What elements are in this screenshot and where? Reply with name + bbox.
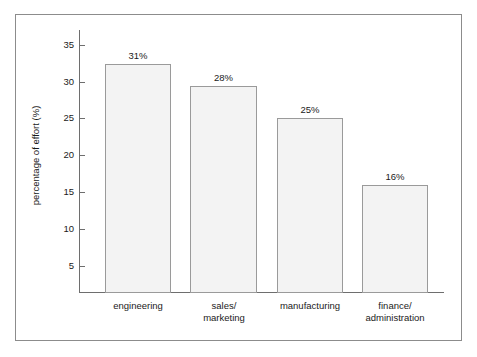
figure: percentage of effort (%) 35 30 25 20 15 … <box>0 0 477 357</box>
y-tick-35 <box>80 45 85 46</box>
y-tick-25 <box>80 118 85 119</box>
bar-finance-administration[interactable] <box>362 185 428 293</box>
y-tick-label-30: 30 <box>52 77 74 87</box>
bar-value-label-finance-administration: 16% <box>362 171 428 182</box>
x-tick-label-engineering: engineering <box>90 300 186 312</box>
x-tick-label-finance-administration: finance/ administration <box>340 300 450 324</box>
x-tick-label-sales-marketing: sales/ marketing <box>176 300 272 324</box>
y-axis-title: percentage of effort (%) <box>30 96 41 216</box>
bar-manufacturing[interactable] <box>277 118 343 293</box>
y-tick-10 <box>80 229 85 230</box>
y-tick-20 <box>80 155 85 156</box>
y-tick-label-5: 5 <box>52 261 74 271</box>
y-tick-15 <box>80 192 85 193</box>
y-tick-label-15: 15 <box>52 187 74 197</box>
bar-sales-marketing[interactable] <box>190 86 257 293</box>
y-tick-label-25: 25 <box>52 113 74 123</box>
bar-value-label-manufacturing: 25% <box>277 104 343 115</box>
bar-value-label-engineering: 31% <box>105 50 171 61</box>
y-tick-label-35: 35 <box>52 40 74 50</box>
bar-value-label-sales-marketing: 28% <box>190 72 257 83</box>
y-tick-label-20: 20 <box>52 150 74 160</box>
y-axis-line <box>79 30 80 293</box>
bar-engineering[interactable] <box>105 64 171 293</box>
y-tick-label-10: 10 <box>52 224 74 234</box>
y-tick-30 <box>80 82 85 83</box>
plot-area: percentage of effort (%) 35 30 25 20 15 … <box>0 0 477 357</box>
y-tick-5 <box>80 266 85 267</box>
